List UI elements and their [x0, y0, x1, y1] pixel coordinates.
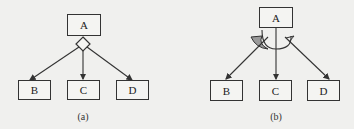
- caption-a: (a): [68, 111, 98, 122]
- node-a-c: C: [67, 80, 100, 100]
- node-b-d: D: [307, 80, 340, 101]
- diagram-figure: A B C D (a) A B C D (b): [0, 0, 354, 129]
- node-label: A: [272, 12, 280, 24]
- caption-b: (b): [261, 111, 291, 122]
- connectors-layer: [0, 0, 354, 129]
- node-label: B: [31, 84, 38, 96]
- node-label: C: [80, 84, 87, 96]
- node-label: A: [80, 19, 88, 31]
- node-label: B: [223, 85, 230, 97]
- node-b-c: C: [259, 80, 292, 101]
- node-label: D: [129, 84, 137, 96]
- node-a-top: A: [67, 14, 101, 36]
- node-label: D: [320, 85, 328, 97]
- node-a-b: B: [18, 80, 51, 100]
- node-b-b: B: [210, 80, 243, 101]
- diagram-a-edges: [30, 37, 132, 80]
- node-b-top: A: [259, 7, 293, 28]
- shaded-arc-icon: [251, 36, 268, 49]
- diagram-b-edges: [226, 28, 329, 79]
- node-label: C: [272, 85, 279, 97]
- node-a-d: D: [116, 80, 149, 100]
- diamond-connector-icon: [76, 37, 90, 51]
